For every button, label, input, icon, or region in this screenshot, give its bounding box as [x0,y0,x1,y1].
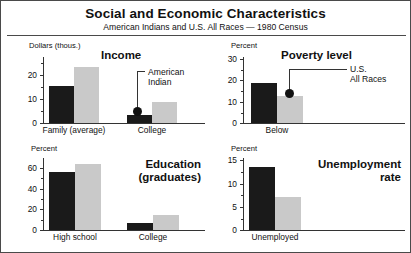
education-tick-0 [40,230,43,231]
unemployment-ytick-label-15: 15 [217,156,237,165]
education-tick-50 [41,178,43,179]
figure-header: Social and Economic Characteristics Amer… [1,1,410,33]
poverty-tick-10 [240,102,243,103]
poverty-tick-30 [240,59,243,60]
education-tick-40 [40,189,43,190]
education-ytick-label-40: 40 [17,185,37,194]
education-ytick-label-20: 20 [17,205,37,214]
unemployment-category-label-unemployed: Unemployed [235,232,315,242]
education-y-axis-label: Percent [31,144,57,153]
income-tick-10 [40,99,43,100]
income-y-axis-label: Dollars (thous.) [29,41,80,50]
income-tick-25 [41,63,43,64]
income-ytick-label-20: 20 [17,71,37,80]
education-x-axis [43,230,205,231]
poverty-x-axis [243,123,405,124]
income-bar-american-indian-college [127,115,152,123]
unemployment-y-axis [243,158,244,230]
unemployment-ytick-label-5: 5 [217,203,237,212]
income-callout-leader [137,71,138,109]
poverty-callout-label: U.S. All Races [350,64,386,84]
income-callout-elbow [137,71,145,72]
poverty-tick-15 [241,91,243,92]
unemployment-plot: 0 5 10 15 [209,156,405,234]
poverty-y-axis-label: Percent [231,41,257,50]
unemployment-tick-10 [240,184,243,185]
poverty-ytick-label-10: 10 [217,98,237,107]
poverty-ytick-label-20: 20 [217,76,237,85]
income-tick-0 [40,123,43,124]
education-tick-20 [40,209,43,210]
income-callout-dot [133,107,142,116]
education-bar-american-indian-high-school [49,172,75,230]
education-category-label-high-school: High school [35,232,115,242]
poverty-callout-dot [285,89,294,98]
education-ytick-label-0: 0 [17,226,37,235]
poverty-category-label-below: Below [242,125,312,135]
chart-figure: Social and Economic Characteristics Amer… [0,0,411,253]
poverty-ytick-label-0: 0 [217,119,237,128]
income-tick-15 [41,87,43,88]
education-bar-us-all-races-high-school [75,164,101,230]
education-category-label-college: College [118,232,188,242]
unemployment-ytick-label-0: 0 [217,226,237,235]
poverty-bar-us-all-races-below [277,96,303,123]
income-tick-20 [40,75,43,76]
panel-unemployment-rate: Percent Unemployment rate 0 5 10 15 Unem… [209,144,405,248]
income-x-axis [43,123,205,124]
unemployment-tick-5 [240,207,243,208]
unemployment-tick-2-5 [241,219,243,220]
education-plot: 0 20 40 60 [9,156,205,234]
unemployment-tick-15 [240,160,243,161]
unemployment-ytick-label-10: 10 [217,180,237,189]
income-category-label-college: College [117,125,187,135]
poverty-tick-5 [241,113,243,114]
poverty-tick-20 [240,80,243,81]
title-divider [7,35,406,36]
page-title: Social and Economic Characteristics [1,6,410,21]
education-bar-us-all-races-college [153,215,179,230]
panel-income: Dollars (thous.) Income 0 10 20 [9,41,205,139]
poverty-callout-elbow [289,69,347,70]
income-bar-us-all-races-family [74,67,99,123]
income-bar-us-all-races-college [152,102,177,123]
income-plot: 0 10 20 [9,55,205,127]
unemployment-bar-american-indian-unemployed [249,167,275,230]
panel-poverty-level: Percent Poverty level 0 10 20 30 U.S. A [209,41,405,139]
unemployment-y-axis-label: Percent [231,144,257,153]
poverty-y-axis [243,57,244,123]
unemployment-tick-0 [240,230,243,231]
unemployment-tick-12-5 [241,172,243,173]
poverty-ytick-label-30: 30 [217,55,237,64]
income-bar-american-indian-family [49,86,74,123]
unemployment-tick-7-5 [241,195,243,196]
education-ytick-label-60: 60 [17,164,37,173]
education-bar-american-indian-college [127,223,153,230]
income-category-label-family: Family (average) [29,125,119,135]
unemployment-x-axis [243,230,405,231]
poverty-tick-25 [241,70,243,71]
poverty-callout-leader [289,69,290,91]
unemployment-bar-us-all-races-unemployed [275,197,301,230]
panel-education: Percent Education (graduates) 0 20 40 60 [9,144,205,248]
income-ytick-label-10: 10 [17,95,37,104]
education-tick-10 [41,220,43,221]
education-tick-30 [41,199,43,200]
education-tick-60 [40,168,43,169]
income-y-axis [43,57,44,123]
figure-subtitle: American Indians and U.S. All Races — 19… [1,22,410,33]
poverty-tick-0 [240,123,243,124]
poverty-bar-american-indian-below [251,83,277,123]
education-y-axis [43,158,44,230]
income-tick-5 [41,111,43,112]
income-callout-label: American Indian [148,67,184,87]
